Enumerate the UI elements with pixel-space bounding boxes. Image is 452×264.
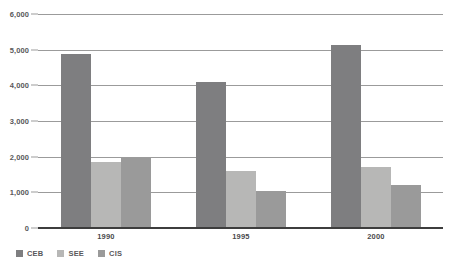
bar-group <box>61 14 151 228</box>
bar-ceb-1995 <box>196 82 226 228</box>
y-axis-tick <box>31 192 38 193</box>
bar-chart: 6,0005,0004,0003,0002,0001,0000 19901995… <box>0 0 452 264</box>
y-axis-label: 2,000 <box>0 152 29 161</box>
y-axis-label: 6,000 <box>0 10 29 19</box>
legend-label: CEB <box>27 249 43 258</box>
y-axis-tick <box>31 49 38 50</box>
x-axis-line <box>38 227 443 229</box>
bar-cis-2000 <box>391 185 421 228</box>
bar-see-1990 <box>91 162 121 228</box>
legend-item-ceb[interactable]: CEB <box>16 249 43 258</box>
bar-see-1995 <box>226 171 256 228</box>
legend-item-cis[interactable]: CIS <box>98 249 122 258</box>
y-axis-tick <box>31 228 38 229</box>
y-axis-tick <box>31 85 38 86</box>
legend-swatch-icon <box>98 250 105 257</box>
y-axis-label: 1,000 <box>0 188 29 197</box>
y-axis-tick <box>31 156 38 157</box>
x-axis-label: 1990 <box>97 232 115 241</box>
bar-cis-1995 <box>256 191 286 228</box>
legend-swatch-icon <box>57 250 64 257</box>
y-axis-label: 0 <box>0 224 29 233</box>
y-axis-label: 4,000 <box>0 81 29 90</box>
y-axis-tick <box>31 121 38 122</box>
chart-legend: CEBSEECIS <box>16 249 122 258</box>
bar-group <box>196 14 286 228</box>
bar-ceb-2000 <box>331 45 361 228</box>
bar-cis-1990 <box>121 158 151 228</box>
bar-group <box>331 14 421 228</box>
plot-area <box>38 14 443 228</box>
x-axis-label: 2000 <box>367 232 385 241</box>
bar-see-2000 <box>361 167 391 228</box>
legend-label: SEE <box>68 249 84 258</box>
x-axis-label: 1995 <box>232 232 250 241</box>
legend-label: CIS <box>109 249 122 258</box>
legend-item-see[interactable]: SEE <box>57 249 84 258</box>
legend-swatch-icon <box>16 250 23 257</box>
y-axis-tick <box>31 14 38 15</box>
y-axis-label: 3,000 <box>0 117 29 126</box>
bar-ceb-1990 <box>61 54 91 228</box>
y-axis-label: 5,000 <box>0 45 29 54</box>
